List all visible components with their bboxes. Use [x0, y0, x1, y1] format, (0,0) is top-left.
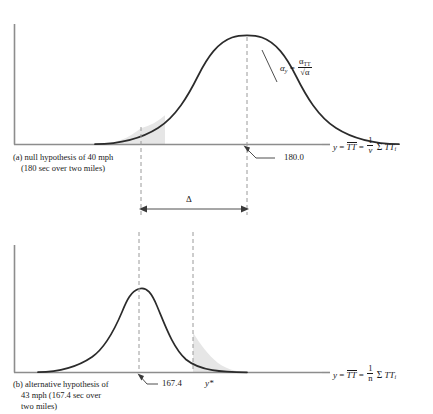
axis-equals-2: = — [359, 142, 364, 152]
axis-y-symbol: y — [333, 142, 337, 152]
axis-frac-den-b: n — [367, 374, 373, 384]
panel-b-caption-line3: two miles) — [13, 401, 109, 412]
delta-arrowhead-right — [241, 206, 249, 213]
axis-fraction: 1 ν — [367, 136, 373, 156]
distributions-svg — [0, 0, 433, 414]
panel-a-axis-label: y = TT = 1 ν Σ TTi — [333, 136, 396, 156]
panel-b-caption-line2: 43 mph (167.4 sec over — [13, 390, 109, 401]
panel-b-caption-line1: (b) alternative hypothesis of — [13, 379, 109, 389]
delta-arrowhead-left — [139, 206, 147, 213]
axis-frac-den: ν — [367, 146, 373, 156]
formula-alpha-y: αy — [280, 63, 287, 73]
axis-term-sub-b: i — [395, 374, 397, 380]
panel-b-caption: (b) alternative hypothesis of 43 mph (16… — [13, 379, 109, 413]
delta-connector-group — [139, 206, 249, 213]
panel-a-caption-line1: (a) null hypothesis of 40 mph — [13, 152, 113, 162]
formula-denominator: √α — [298, 68, 312, 78]
axis-tt-bar-b: TT — [347, 370, 357, 380]
panel-a-formula-leader-line — [262, 50, 277, 82]
formula-fraction: αTT √α — [298, 57, 312, 78]
axis-tt-bar: TT — [347, 142, 357, 152]
panel-a-group — [14, 24, 399, 215]
axis-equals-1: = — [339, 142, 344, 152]
hypothesis-test-figure: αy = αTT √α 180.0 y = TT = 1 ν Σ TTi (a)… — [0, 0, 433, 414]
axis-sigma-symbol: Σ — [377, 142, 383, 152]
panel-a-caption-line2: (180 sec over two miles) — [13, 163, 113, 174]
axis-term-sub: i — [395, 146, 397, 152]
axis-term: TT — [385, 142, 395, 152]
axis-sigma-symbol-b: Σ — [377, 370, 383, 380]
panel-b-axis-label: y = TT = 1 n Σ TTi — [333, 364, 396, 384]
panel-a-caption: (a) null hypothesis of 40 mph (180 sec o… — [13, 152, 113, 174]
formula-equals: = — [290, 63, 295, 73]
panel-b-critical-value-label: y* — [205, 378, 214, 388]
axis-y-symbol-b: y — [333, 370, 337, 380]
axis-fraction-b: 1 n — [367, 364, 373, 384]
panel-a-mean-value-label: 180.0 — [284, 152, 304, 162]
panel-b-normal-curve — [38, 288, 247, 372]
axis-term-b: TT — [385, 370, 395, 380]
panel-a-sigma-formula: αy = αTT √α — [280, 57, 313, 78]
delta-label: Δ — [186, 194, 192, 204]
axis-equals-1-b: = — [339, 370, 344, 380]
axis-equals-2-b: = — [359, 370, 364, 380]
panel-b-shaded-tail — [193, 333, 252, 373]
panel-b-mean-value-label: 167.4 — [162, 378, 182, 388]
panel-b-group — [14, 232, 322, 384]
